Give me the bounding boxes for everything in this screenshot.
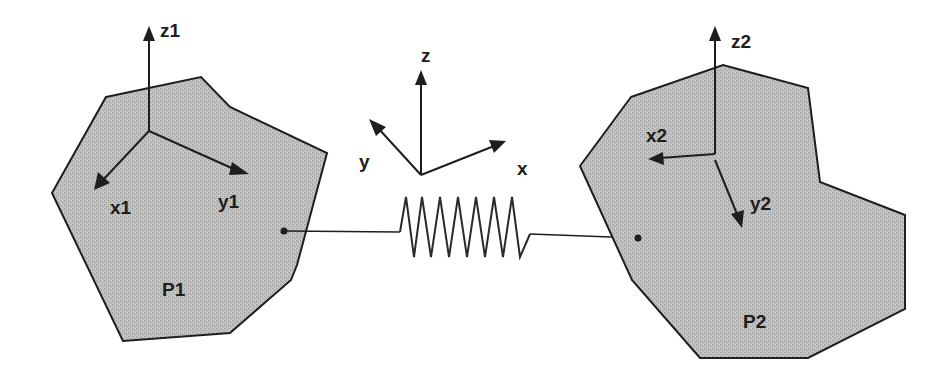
z1-arrow-icon: [143, 26, 155, 41]
x-arrow-icon: [489, 140, 506, 153]
body-p1-shape: [52, 77, 327, 341]
y2-label: y2: [750, 193, 771, 214]
z-arrow-icon: [415, 70, 427, 85]
x-axis: [421, 146, 494, 175]
z2-label: z2: [731, 31, 751, 52]
x-label: x: [517, 158, 528, 179]
left-wire: [284, 231, 400, 232]
x2-label: x2: [646, 125, 667, 146]
body-p2: z2 x2 y2 P2: [580, 26, 905, 358]
p2-label: P2: [743, 311, 766, 332]
x1-label: x1: [110, 197, 132, 218]
z2-arrow-icon: [709, 26, 721, 41]
rigid-body-spring-diagram: z1 x1 y1 P1 z y x z2 x2: [0, 0, 951, 377]
p1-label: P1: [162, 279, 186, 300]
p2-attachment-point: [635, 235, 642, 242]
spring-coil-icon: [400, 197, 530, 257]
y-axis: [378, 128, 421, 175]
spring-connector: [284, 197, 638, 257]
global-frame: z y x: [359, 45, 528, 179]
y1-label: y1: [218, 191, 240, 212]
y-label: y: [359, 151, 370, 172]
z-label: z: [421, 45, 431, 66]
body-p1: z1 x1 y1 P1: [52, 20, 327, 341]
z1-label: z1: [160, 20, 181, 41]
